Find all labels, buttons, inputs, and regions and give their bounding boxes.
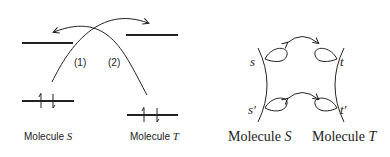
- orbital-label-t-prime: t′: [340, 102, 347, 117]
- s-orbital-lobe-icon: [265, 48, 287, 61]
- top-double-arrow-icon: [287, 37, 318, 44]
- left-molecule-s-label: Molecule S: [24, 130, 73, 142]
- bottom-double-arrow-icon: [287, 93, 318, 100]
- curve-2-label: (2): [108, 57, 120, 68]
- curve-1-label: (1): [74, 57, 86, 68]
- left-molecule-t-label: Molecule T: [130, 130, 180, 142]
- orbital-interaction-figure: (1) (2) Molecule S Molecule T s t s′ t′ …: [0, 0, 390, 157]
- right-molecule-t-label: Molecule T: [312, 129, 377, 144]
- right-molecule-s-label: Molecule S: [228, 129, 291, 144]
- curve-2-arrow: [54, 26, 147, 95]
- orbital-label-s: s: [250, 54, 255, 69]
- orbital-label-t: t: [340, 54, 344, 69]
- orbital-lobe-diagram: [258, 37, 344, 123]
- s-prime-orbital-lobe-icon: [265, 98, 287, 111]
- orbital-label-s-prime: s′: [248, 102, 256, 117]
- t-orbital-lobe-icon: [315, 48, 337, 61]
- t-prime-orbital-lobe-icon: [315, 98, 337, 111]
- energy-level-diagram: (1) (2) Molecule S Molecule T: [22, 19, 180, 142]
